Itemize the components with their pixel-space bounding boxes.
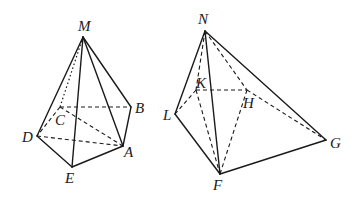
geometry-diagram: MBCDAE NKHLGF xyxy=(0,0,358,200)
visible-edge-de xyxy=(37,136,72,167)
vertex-label-c: C xyxy=(55,112,66,128)
hidden-edge-nh xyxy=(205,31,247,90)
visible-edge-ng xyxy=(205,31,326,140)
hidden-edge-hg xyxy=(247,90,326,140)
hidden-edge-ca xyxy=(60,107,123,146)
visible-edge-lf xyxy=(175,114,220,174)
visible-edge-nl xyxy=(175,31,205,114)
pyramid-m-figure: MBCDAE xyxy=(21,18,144,186)
vertex-label-k: K xyxy=(195,75,207,91)
visible-edge-mb xyxy=(83,37,131,107)
pyramid-n-figure: NKHLGF xyxy=(162,11,341,193)
visible-edge-nf xyxy=(205,31,220,174)
hidden-edge-kf xyxy=(196,90,220,174)
vertex-label-m: M xyxy=(77,18,92,34)
vertex-label-f: F xyxy=(212,177,223,193)
visible-edge-ea xyxy=(72,146,123,167)
vertex-label-e: E xyxy=(64,170,74,186)
vertex-label-g: G xyxy=(330,135,341,151)
vertex-label-d: D xyxy=(21,129,33,145)
vertex-label-a: A xyxy=(123,144,134,160)
vertex-label-b: B xyxy=(135,100,144,116)
hidden-edge-kl xyxy=(175,90,196,114)
visible-edge-fg xyxy=(220,140,326,174)
visible-edge-ab xyxy=(123,107,131,146)
vertex-label-n: N xyxy=(197,11,209,27)
vertex-label-l: L xyxy=(162,107,171,123)
visible-edge-ma xyxy=(83,37,123,146)
vertex-label-h: H xyxy=(242,95,255,111)
